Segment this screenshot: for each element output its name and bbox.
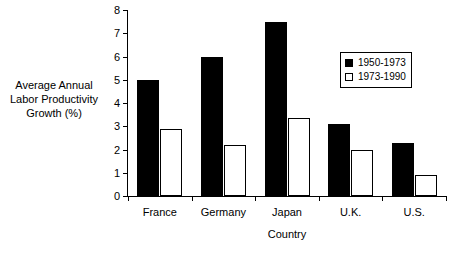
y-tick-mark — [123, 173, 128, 174]
bar-chart: Average Annual Labor Productivity Growth… — [0, 0, 460, 256]
plot-area: 012345678 FranceGermanyJapanU.K.U.S. — [128, 10, 446, 196]
bar-france-1950-1973 — [137, 80, 159, 196]
bar-germany-1950-1973 — [201, 57, 223, 197]
x-axis-line — [127, 196, 446, 197]
legend-label: 1973-1990 — [358, 72, 406, 82]
x-category-label: France — [143, 206, 177, 219]
bar-u-k-1973-1990 — [351, 150, 373, 197]
y-tick-label: 8 — [114, 5, 120, 16]
legend-swatch-icon — [345, 59, 353, 67]
bar-u-s-1973-1990 — [415, 175, 437, 196]
y-tick-mark — [123, 57, 128, 58]
y-tick-label: 3 — [114, 121, 120, 132]
y-axis-title-line-2: Labor Productivity — [0, 92, 108, 106]
y-tick-label: 7 — [114, 28, 120, 39]
y-tick-mark — [123, 33, 128, 34]
x-axis-title: Country — [128, 228, 446, 241]
x-category-label: Germany — [201, 206, 246, 219]
bar-japan-1950-1973 — [265, 22, 287, 196]
legend-swatch-icon — [345, 73, 353, 81]
y-tick-label: 4 — [114, 98, 120, 109]
bar-u-s-1950-1973 — [392, 143, 414, 196]
y-tick-mark — [123, 126, 128, 127]
y-tick-label: 2 — [114, 144, 120, 155]
y-tick-label: 1 — [114, 167, 120, 178]
legend-label: 1950-1973 — [358, 58, 406, 68]
y-tick-mark — [123, 10, 128, 11]
x-tick-mark — [128, 196, 129, 201]
y-tick-label: 6 — [114, 51, 120, 62]
x-category-label: Japan — [272, 206, 302, 219]
x-tick-mark — [446, 196, 447, 201]
legend-item: 1973-1990 — [345, 70, 406, 84]
y-tick-label: 5 — [114, 74, 120, 85]
bar-france-1973-1990 — [160, 129, 182, 196]
x-category-label: U.S. — [403, 206, 424, 219]
legend: 1950-19731973-1990 — [340, 52, 412, 88]
x-tick-mark — [255, 196, 256, 201]
y-tick-mark — [123, 150, 128, 151]
y-axis-title: Average Annual Labor Productivity Growth… — [0, 78, 108, 120]
bar-germany-1973-1990 — [224, 145, 246, 196]
x-tick-mark — [319, 196, 320, 201]
y-tick-mark — [123, 103, 128, 104]
y-axis-title-line-3: Growth (%) — [0, 106, 108, 120]
x-tick-mark — [382, 196, 383, 201]
bar-japan-1973-1990 — [288, 118, 310, 196]
x-tick-mark — [192, 196, 193, 201]
legend-item: 1950-1973 — [345, 56, 406, 70]
y-tick-label: 0 — [114, 191, 120, 202]
y-axis-title-line-1: Average Annual — [0, 78, 108, 92]
y-tick-mark — [123, 80, 128, 81]
bar-u-k-1950-1973 — [328, 124, 350, 196]
x-category-label: U.K. — [340, 206, 361, 219]
